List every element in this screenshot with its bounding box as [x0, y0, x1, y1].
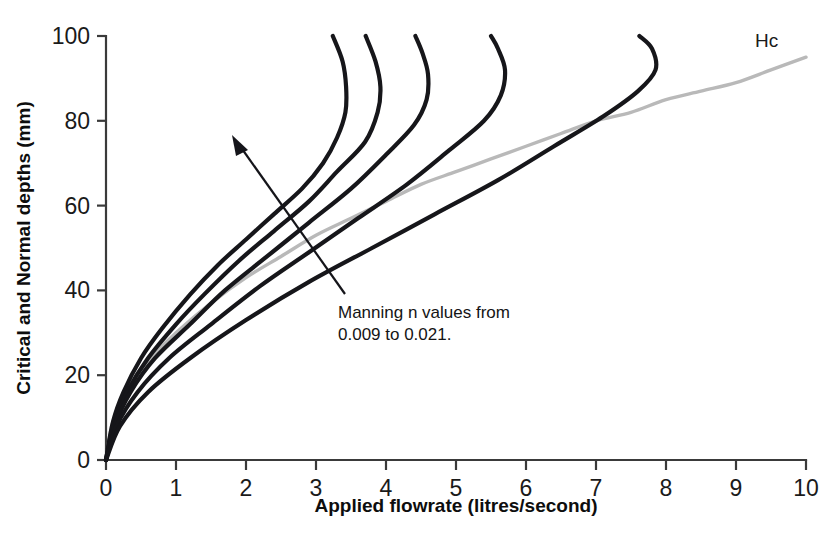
series-curve-n-0.012	[106, 36, 380, 460]
y-axis-title: Critical and Normal depths (mm)	[13, 101, 34, 395]
x-tick-label: 1	[170, 475, 183, 501]
x-tick-label: 9	[730, 475, 743, 501]
y-tick-label: 40	[64, 277, 90, 303]
series-curve-n-0.018	[106, 36, 505, 460]
y-tick-label: 60	[64, 193, 90, 219]
y-tick-label: 80	[64, 108, 90, 134]
chart-canvas: 020406080100 012345678910 Hc Manning n v…	[0, 0, 838, 551]
y-tick-label: 100	[52, 23, 90, 49]
x-axis-title: Applied flowrate (litres/second)	[315, 495, 598, 516]
axes	[97, 36, 806, 470]
x-tick-label: 10	[793, 475, 819, 501]
data-series-group	[106, 36, 806, 460]
y-tick-marks	[97, 36, 106, 460]
y-tick-label: 20	[64, 362, 90, 388]
x-tick-label: 0	[100, 475, 113, 501]
series-curve-Hc	[106, 57, 806, 460]
chart-container: 020406080100 012345678910 Hc Manning n v…	[0, 0, 838, 551]
x-tick-marks	[106, 460, 806, 470]
annotation-line-1: Manning n values from	[338, 303, 510, 322]
x-tick-label: 2	[240, 475, 253, 501]
y-tick-label: 0	[77, 447, 90, 473]
annotation-line-2: 0.009 to 0.021.	[338, 325, 451, 344]
x-tick-label: 8	[660, 475, 673, 501]
series-label-hc: Hc	[755, 30, 778, 51]
y-tick-labels: 020406080100	[52, 23, 90, 473]
